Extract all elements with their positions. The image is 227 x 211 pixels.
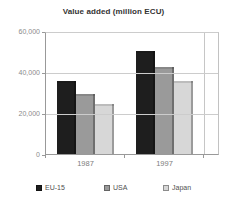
bar-eu-15-1987 <box>57 81 76 154</box>
legend-item-usa: USA <box>104 184 127 191</box>
bar-japan-1987 <box>95 104 114 154</box>
legend-swatch-icon <box>104 185 110 191</box>
gridline <box>46 73 218 74</box>
legend-item-eu-15: EU-15 <box>36 184 65 191</box>
bar-groups <box>46 33 204 154</box>
chart-window: Value added (million ECU) 60,00040,00020… <box>0 0 227 211</box>
x-axis-tick <box>203 155 204 158</box>
plot-area <box>45 32 219 155</box>
chart-title: Value added (million ECU) <box>0 7 227 16</box>
x-axis-labels: 19871997 <box>46 159 204 168</box>
bar-japan-1997 <box>174 81 193 154</box>
y-axis-tick-label: 0 <box>0 151 40 158</box>
y-axis-tick-label: 60,000 <box>0 28 40 35</box>
x-axis-tick-label: 1997 <box>125 159 204 168</box>
gridline <box>46 114 218 115</box>
legend-label: EU-15 <box>45 184 65 191</box>
x-axis-tick <box>45 155 46 158</box>
legend-item-japan: Japan <box>163 184 191 191</box>
bar-usa-1997 <box>155 67 174 154</box>
bar-usa-1987 <box>76 94 95 155</box>
legend-label: USA <box>113 184 127 191</box>
y-axis-tick-label: 40,000 <box>0 69 40 76</box>
y-axis-tick-label: 20,000 <box>0 110 40 117</box>
x-axis-tick-label: 1987 <box>46 159 125 168</box>
legend-swatch-icon <box>36 185 42 191</box>
legend: EU-15USAJapan <box>0 184 227 194</box>
x-axis-tick <box>124 155 125 158</box>
bar-eu-15-1997 <box>136 51 155 154</box>
bar-group-1987 <box>46 33 125 154</box>
plot-side-wall-line <box>204 33 205 154</box>
legend-swatch-icon <box>163 185 169 191</box>
bar-group-1997 <box>125 33 204 154</box>
legend-label: Japan <box>172 184 191 191</box>
